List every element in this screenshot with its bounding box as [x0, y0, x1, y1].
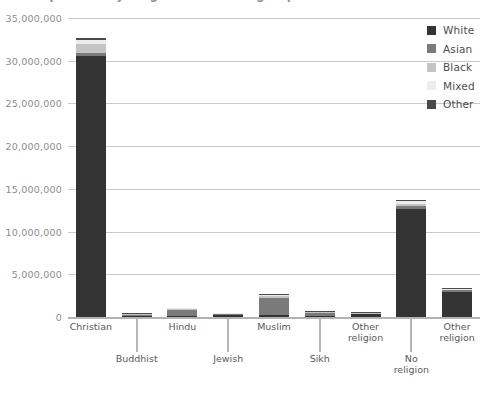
x-axis-label-3: Jewish: [213, 353, 243, 364]
gridline: [68, 146, 480, 147]
bar-segment-black: [76, 44, 106, 53]
plot-area: 05,000,00010,000,00015,000,00020,000,000…: [68, 18, 480, 317]
legend-swatch-icon-asian: [427, 44, 436, 53]
x-axis-label-0: Christian: [70, 321, 112, 332]
x-axis-label-2: Hindu: [169, 321, 197, 332]
legend-item-mixed[interactable]: Mixed: [427, 80, 475, 92]
x-axis-leader-line-7: [411, 319, 412, 352]
x-axis-leader-line-5: [319, 319, 320, 352]
legend-item-asian[interactable]: Asian: [427, 43, 475, 55]
chart-canvas: Population by religion and ethnic group …: [0, 0, 503, 395]
legend-label: Asian: [443, 43, 472, 55]
chart-legend: WhiteAsianBlackMixedOther: [427, 24, 475, 110]
legend-label: Mixed: [443, 80, 475, 92]
bar-hindu-2[interactable]: [167, 308, 197, 317]
y-axis-tick-label: 30,000,000: [6, 55, 62, 66]
x-axis-leader-line-3: [228, 319, 229, 352]
legend-label: Black: [443, 61, 472, 73]
bar-christian-0[interactable]: [76, 38, 106, 317]
legend-swatch-icon-other: [427, 100, 436, 109]
chart-title: Population by religion and ethnic group: [33, 0, 295, 2]
legend-swatch-icon-mixed: [427, 81, 436, 90]
x-axis-label-5: Sikh: [310, 353, 330, 364]
gridline: [68, 103, 480, 104]
y-axis-tick-label: 0: [56, 312, 62, 323]
bar-segment-white: [442, 292, 472, 317]
legend-item-other[interactable]: Other: [427, 98, 475, 110]
y-axis-tick-label: 25,000,000: [6, 98, 62, 109]
legend-label: White: [443, 24, 474, 36]
gridline: [68, 61, 480, 62]
y-axis-tick-label: 15,000,000: [6, 183, 62, 194]
x-axis-label-1: Buddhist: [116, 353, 158, 364]
y-axis-tick-label: 35,000,000: [6, 13, 62, 24]
x-axis-label-4: Muslim: [257, 321, 291, 332]
bar-other-religion-8[interactable]: [442, 288, 472, 317]
bar-segment-white: [76, 56, 106, 317]
legend-swatch-icon-white: [427, 26, 436, 35]
legend-label: Other: [443, 98, 474, 110]
x-axis-label-6: Otherreligion: [336, 321, 396, 343]
bar-muslim-4[interactable]: [259, 294, 289, 317]
y-axis-tick-label: 10,000,000: [6, 226, 62, 237]
legend-item-white[interactable]: White: [427, 24, 475, 36]
bar-segment-white: [396, 209, 426, 317]
bar-segment-asian: [259, 298, 289, 314]
x-axis-leader-line-1: [136, 319, 137, 352]
gridline: [68, 189, 480, 190]
y-axis-tick-label: 20,000,000: [6, 141, 62, 152]
x-axis-label-8: Otherreligion: [427, 321, 487, 343]
bar-no-religion-7[interactable]: [396, 200, 426, 317]
legend-swatch-icon-black: [427, 63, 436, 72]
y-axis-tick-label: 5,000,000: [12, 269, 62, 280]
legend-item-black[interactable]: Black: [427, 61, 475, 73]
x-axis-line: [68, 317, 480, 319]
gridline: [68, 18, 480, 19]
x-axis-label-7: Noreligion: [381, 353, 441, 375]
bar-segment-asian: [167, 310, 197, 317]
